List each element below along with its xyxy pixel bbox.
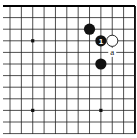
white-stone [107,35,118,46]
star-point-icon [31,39,34,42]
go-board-diagram: 1 a [0,0,137,138]
star-point-icon [99,109,102,112]
move-number: 1 [99,37,104,46]
black-stone: 1 [95,35,106,46]
point-markers: a [108,47,116,57]
black-stone [95,58,106,69]
grid-lines [3,6,135,134]
point-label-a: a [110,47,114,57]
black-stone [84,24,95,35]
star-point-icon [31,109,34,112]
black-stone-icon [84,24,95,35]
black-stone-icon [95,58,106,69]
white-stone-icon [107,35,118,46]
